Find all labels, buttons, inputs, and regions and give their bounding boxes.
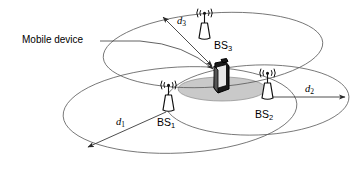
d3-label-subscript: 3 bbox=[182, 19, 186, 28]
base-station-label-bs2: BS2 bbox=[255, 109, 273, 120]
distance-label-d1: d1 bbox=[116, 117, 125, 128]
bs3-label-subscript: 3 bbox=[228, 44, 232, 53]
antenna-tower-icon-bs1 bbox=[161, 81, 177, 111]
distance-label-d3: d3 bbox=[177, 16, 186, 27]
distance-label-d2: d2 bbox=[305, 84, 314, 95]
cell-coverage-ellipse-bs2 bbox=[164, 62, 350, 138]
distance-line-d1 bbox=[88, 112, 166, 147]
d2-label-subscript: 2 bbox=[310, 87, 314, 96]
antenna-tower-icon-bs3 bbox=[197, 9, 213, 39]
bs2-label-text: BS bbox=[255, 108, 269, 120]
mobile-device-caption: Mobile device bbox=[22, 35, 83, 45]
base-station-label-bs1: BS1 bbox=[157, 117, 175, 128]
bs1-label-subscript: 1 bbox=[171, 121, 175, 130]
mobile-phone-icon bbox=[214, 59, 229, 94]
cellular-positioning-diagram: Mobile device BS3 BS1 BS2 d3 d1 d2 bbox=[0, 0, 362, 179]
d1-label-subscript: 1 bbox=[121, 120, 125, 129]
mobile-device-leader-line bbox=[100, 41, 213, 69]
base-station-label-bs3: BS3 bbox=[214, 40, 232, 51]
bs3-label-text: BS bbox=[214, 39, 228, 51]
bs1-label-text: BS bbox=[157, 116, 171, 128]
bs2-label-subscript: 2 bbox=[269, 113, 273, 122]
